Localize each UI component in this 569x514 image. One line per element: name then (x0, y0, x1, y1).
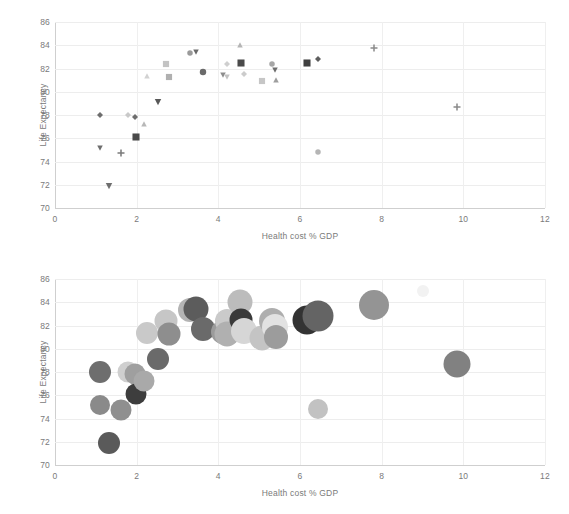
data-point-marker-triangle-down (193, 49, 199, 55)
y-axis-tick-label: 86 (40, 17, 50, 27)
x-axis-tick-label: 10 (458, 471, 468, 481)
y-axis-tick-label: 84 (40, 40, 50, 50)
data-point-marker-diamond (125, 112, 131, 118)
y-axis-tick-label: 84 (40, 297, 50, 307)
y-axis-ticks-top: 707274767880828486 (26, 22, 50, 208)
data-point-marker-triangle-down (224, 74, 230, 80)
x-axis-tick-label: 6 (298, 471, 303, 481)
gridline-vertical (545, 279, 546, 465)
data-point-marker-square (259, 77, 266, 84)
data-point-marker-circle (199, 68, 206, 75)
x-axis-tick-label: 4 (216, 214, 221, 224)
x-axis-tick-label: 4 (216, 471, 221, 481)
data-point-marker-circle (187, 50, 193, 56)
data-point-bubble (134, 370, 155, 391)
data-point-marker-square (237, 59, 245, 67)
data-point-bubble (308, 399, 328, 419)
data-point-marker-triangle-down (97, 145, 103, 151)
x-axis-tick-label: 2 (134, 214, 139, 224)
data-point-bubble (89, 361, 111, 383)
gridline-vertical (545, 22, 546, 208)
y-axis-title-container-top: Life Expectancy (10, 22, 24, 208)
chart-panel-bottom: Life Expectancy 707274767880828486 02468… (0, 257, 569, 514)
data-point-marker-triangle-down (105, 182, 112, 189)
chart-panel-top: Life Expectancy 707274767880828486 02468… (0, 0, 569, 257)
data-point-marker-circle (269, 61, 275, 67)
x-axis-tick-label: 0 (53, 214, 58, 224)
data-point-bubble (302, 301, 333, 332)
gridline-vertical (218, 279, 219, 465)
y-axis-ticks-bottom: 707274767880828486 (26, 279, 50, 465)
y-axis-tick-label: 78 (40, 110, 50, 120)
gridline-vertical (382, 22, 383, 208)
y-axis-tick-label: 72 (40, 437, 50, 447)
data-point-marker-triangle-down (272, 67, 278, 73)
figure-scatter-bubble-pair: Life Expectancy 707274767880828486 02468… (0, 0, 569, 514)
data-point-bubble (98, 432, 120, 454)
data-point-marker-square (163, 61, 170, 68)
y-axis-tick-label: 72 (40, 180, 50, 190)
y-axis-tick-label: 74 (40, 157, 50, 167)
y-axis-tick-label: 80 (40, 344, 50, 354)
x-axis-ticks-bottom: 024681012 (55, 471, 545, 485)
x-axis-tick-label: 10 (458, 214, 468, 224)
x-axis-tick-label: 12 (540, 471, 550, 481)
y-axis-tick-label: 80 (40, 87, 50, 97)
x-axis-tick-label: 12 (540, 214, 550, 224)
data-point-marker-diamond (224, 61, 230, 67)
data-point-marker-triangle-up (273, 77, 279, 83)
y-axis-tick-label: 76 (40, 390, 50, 400)
x-axis-tick-label: 6 (298, 214, 303, 224)
data-point-marker-plus (118, 150, 125, 157)
data-point-marker-plus (371, 44, 378, 51)
data-point-bubble (444, 351, 471, 378)
x-axis-title-bottom: Health cost % GDP (55, 488, 545, 498)
y-axis-tick-label: 70 (40, 460, 50, 470)
y-axis-tick-label: 82 (40, 64, 50, 74)
data-point-marker-triangle-up (237, 42, 243, 48)
data-point-marker-triangle-up (144, 73, 150, 79)
data-point-bubble (111, 400, 132, 421)
y-axis-tick-label: 86 (40, 274, 50, 284)
data-point-marker-diamond (132, 114, 138, 120)
data-point-marker-diamond (241, 71, 247, 77)
gridline-vertical (300, 22, 301, 208)
data-point-bubble (90, 395, 110, 415)
x-axis-tick-label: 2 (134, 471, 139, 481)
x-axis-ticks-top: 024681012 (55, 214, 545, 228)
data-point-bubble (359, 290, 389, 320)
data-point-marker-circle (315, 149, 321, 155)
plot-area-bottom (55, 279, 545, 465)
data-point-marker-diamond (97, 112, 103, 118)
x-axis-tick-label: 8 (379, 471, 384, 481)
data-point-marker-diamond (315, 56, 321, 62)
data-point-marker-triangle-down (154, 99, 161, 106)
y-axis-tick-label: 76 (40, 133, 50, 143)
data-point-marker-square (303, 59, 311, 67)
data-point-marker-triangle-up (141, 121, 147, 127)
data-point-bubble (417, 285, 429, 297)
x-axis-tick-label: 0 (53, 471, 58, 481)
y-axis-tick-label: 70 (40, 203, 50, 213)
data-point-bubble (157, 323, 180, 346)
y-axis-title-container-bottom: Life Expectancy (10, 279, 24, 465)
data-point-bubble (264, 325, 288, 349)
gridline-vertical (218, 22, 219, 208)
data-point-marker-square (165, 74, 172, 81)
y-axis-tick-label: 78 (40, 367, 50, 377)
plot-area-top (55, 22, 545, 208)
data-point-marker-plus (454, 104, 461, 111)
data-point-marker-square (132, 133, 140, 141)
y-axis-tick-label: 82 (40, 321, 50, 331)
gridline-vertical (463, 22, 464, 208)
x-axis-line-bottom (55, 465, 545, 466)
x-axis-line-top (55, 208, 545, 209)
y-axis-tick-label: 74 (40, 414, 50, 424)
x-axis-tick-label: 8 (379, 214, 384, 224)
data-point-bubble (147, 348, 169, 370)
x-axis-title-top: Health cost % GDP (55, 231, 545, 241)
